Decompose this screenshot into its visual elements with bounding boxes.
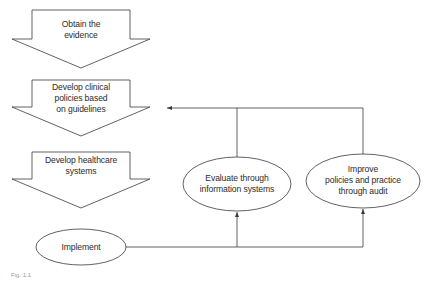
develop-policies-label: Develop clinical policies based on guide… [36, 82, 126, 115]
improve-label: Improve policies and practice through au… [308, 164, 418, 197]
flowchart-canvas [0, 0, 426, 281]
develop-systems-label: Develop healthcare systems [31, 155, 131, 177]
obtain-evidence-label: Obtain the evidence [41, 19, 121, 41]
figure-caption: Fig. 1.1 [11, 272, 31, 278]
evaluate-label: Evaluate through information systems [185, 173, 289, 195]
implement-label: Implement [41, 242, 121, 253]
